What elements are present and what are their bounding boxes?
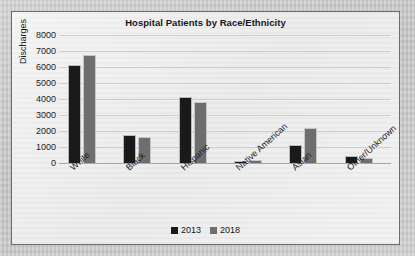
bar-white-2018[interactable] bbox=[83, 55, 96, 163]
y-axis-tick: 6000 bbox=[16, 62, 56, 72]
y-axis-tick: 2000 bbox=[16, 126, 56, 136]
legend-swatch-2013 bbox=[171, 227, 178, 234]
legend-label-2013: 2013 bbox=[181, 225, 201, 235]
legend-item-2013[interactable]: 2013 bbox=[171, 225, 201, 235]
y-axis-tick: 5000 bbox=[16, 78, 56, 88]
legend-label-2018: 2018 bbox=[220, 225, 240, 235]
chart-panel: Hospital Patients by Race/Ethnicity Disc… bbox=[11, 11, 400, 245]
chart-title: Hospital Patients by Race/Ethnicity bbox=[12, 17, 399, 28]
y-axis-tick-labels: 800070006000500040003000200010000 bbox=[12, 35, 56, 164]
y-axis-tick: 3000 bbox=[16, 110, 56, 120]
y-axis-tick: 1000 bbox=[16, 142, 56, 152]
bar-series-container bbox=[59, 35, 391, 164]
y-axis-tick: 7000 bbox=[16, 46, 56, 56]
y-axis-tick: 8000 bbox=[16, 30, 56, 40]
legend-item-2018[interactable]: 2018 bbox=[210, 225, 240, 235]
chart-legend: 20132018 bbox=[12, 225, 399, 235]
bar-group bbox=[68, 55, 96, 163]
legend-swatch-2018 bbox=[210, 227, 217, 234]
y-axis-tick: 0 bbox=[16, 158, 56, 168]
bar-white-2013[interactable] bbox=[68, 65, 81, 163]
x-axis-category-labels: WhiteBlackHispanicNative AmericanAsianOt… bbox=[59, 165, 391, 227]
y-axis-tick: 4000 bbox=[16, 94, 56, 104]
plot-area bbox=[59, 35, 391, 164]
bar-hispanic-2013[interactable] bbox=[179, 97, 192, 163]
